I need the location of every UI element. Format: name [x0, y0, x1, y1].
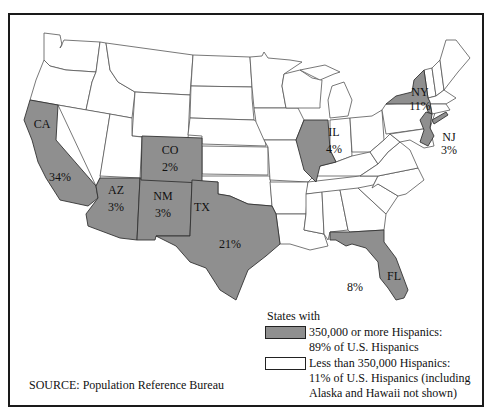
- state-me: [440, 40, 470, 90]
- legend-swatch-white: [265, 357, 306, 370]
- state-ms: [304, 192, 324, 234]
- legend-swatch-gray: [265, 326, 306, 339]
- label-ca: CA: [34, 118, 51, 131]
- state-wa: [44, 33, 100, 72]
- state-nd: [191, 55, 252, 87]
- state-wy: [132, 92, 190, 140]
- legend-item-low: Less than 350,000 Hispanics: 11% of U.S.…: [265, 356, 471, 401]
- legend-item-high: 350,000 or more Hispanics: 89% of U.S. H…: [265, 325, 471, 355]
- legend-title: States with: [267, 309, 471, 324]
- state-sd: [190, 86, 254, 120]
- label-nj: NJ3%: [441, 131, 457, 157]
- state-ar: [270, 182, 308, 214]
- state-ks: [202, 146, 268, 175]
- label-az: AZ3%: [108, 184, 124, 214]
- label-ca-pct: 34%: [49, 171, 71, 184]
- label-il: IL4%: [326, 126, 342, 156]
- label-co: CO2%: [162, 144, 179, 174]
- label-fl: FL: [387, 270, 401, 283]
- label-tx-pct: 21%: [219, 238, 241, 251]
- state-ct-ri: [430, 104, 450, 114]
- label-tx: TX: [194, 201, 210, 214]
- label-ny: NY11%: [409, 86, 431, 113]
- state-iowa: [254, 108, 304, 140]
- legend: States with 350,000 or more Hispanics: 8…: [265, 309, 471, 401]
- legend-label-low: Less than 350,000 Hispanics: 11% of U.S.…: [309, 356, 471, 401]
- label-fl-pct: 8%: [347, 281, 363, 294]
- legend-label-high: 350,000 or more Hispanics: 89% of U.S. H…: [309, 325, 442, 355]
- state-fl-highlight: [330, 230, 408, 300]
- label-nm: NM3%: [153, 190, 172, 220]
- source-note: SOURCE: Population Reference Bureau: [29, 378, 224, 393]
